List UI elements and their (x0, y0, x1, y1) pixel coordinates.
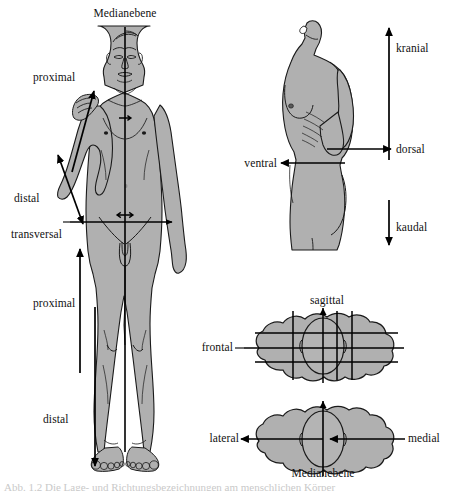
label-medianebene-bottom: Medianebene (291, 468, 354, 480)
front-body-figure (58, 26, 187, 471)
label-sagittal: sagittal (310, 295, 344, 307)
cross-section-bottom (256, 406, 394, 474)
cs-bot-median-arrowhead (320, 401, 327, 408)
front-body-silhouette (86, 26, 162, 452)
label-kranial: kranial (396, 43, 429, 55)
label-frontal: frontal (202, 342, 233, 354)
label-kaudal: kaudal (396, 222, 427, 234)
label-distal-arm: distal (14, 193, 40, 205)
lateral-chin-notch (300, 26, 307, 34)
lateral-body-figure (283, 21, 354, 250)
label-distal-leg: distal (43, 414, 69, 426)
label-dorsal: dorsal (396, 144, 425, 156)
cross-section-top (256, 313, 394, 381)
label-proximal-arm: proximal (33, 72, 75, 84)
front-nipple-right (142, 131, 146, 134)
label-ventral: ventral (244, 158, 277, 170)
label-transversal: transversal (11, 229, 62, 241)
label-proximal-leg: proximal (33, 298, 75, 310)
label-lateral: lateral (210, 433, 239, 445)
label-medial: medial (408, 433, 440, 445)
cs-top-sagittal-arrowhead (320, 308, 327, 315)
lateral-nipple (289, 104, 294, 108)
cut-off-caption: Abb. 1.2 Die Lage- und Richtungsbezeichn… (0, 482, 451, 491)
anatomy-figure: Medianebene proximal distal transversal … (0, 0, 451, 491)
front-nipple-left (104, 131, 108, 134)
label-medianebene-front: Medianebene (93, 8, 156, 20)
cut-off-caption-text: Abb. 1.2 Die Lage- und Richtungsbezeichn… (0, 482, 451, 491)
